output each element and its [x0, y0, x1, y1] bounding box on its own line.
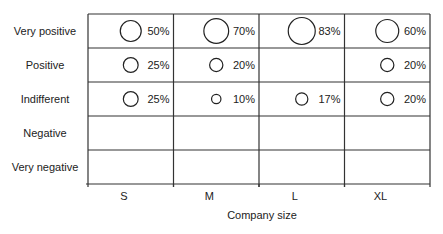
x-category-label: S [120, 190, 127, 202]
x-category-label: XL [374, 190, 387, 202]
x-axis-title: Company size [227, 209, 297, 221]
bubble-grid-chart: Very positivePositiveIndifferentNegative… [0, 0, 443, 234]
bubble-marker [296, 93, 308, 105]
data-value-label: 20% [404, 93, 426, 105]
bubble-marker [376, 20, 399, 43]
y-category-label: Negative [23, 127, 66, 139]
data-value-label: 17% [318, 93, 340, 105]
data-value-label: 25% [147, 93, 169, 105]
bubble-marker [123, 92, 138, 107]
bubble-marker [204, 19, 229, 44]
data-value-label: 20% [233, 59, 255, 71]
data-value-label: 20% [404, 59, 426, 71]
y-category-label: Very negative [12, 161, 79, 173]
data-value-label: 70% [233, 25, 255, 37]
data-value-label: 60% [404, 25, 426, 37]
bubble-marker [210, 58, 223, 71]
bubble-marker [381, 92, 394, 105]
y-category-label: Positive [26, 59, 65, 71]
x-category-label: M [205, 190, 214, 202]
bubble-marker [120, 21, 141, 42]
data-value-label: 25% [147, 59, 169, 71]
y-category-label: Very positive [14, 25, 76, 37]
data-value-label: 50% [147, 25, 169, 37]
data-value-label: 10% [233, 93, 255, 105]
bubble-marker [381, 58, 394, 71]
x-category-label: L [292, 190, 298, 202]
data-value-label: 83% [318, 25, 340, 37]
bubble-marker [288, 18, 315, 45]
y-category-label: Indifferent [21, 93, 70, 105]
bubble-marker [212, 94, 221, 103]
bubble-marker [123, 58, 138, 73]
